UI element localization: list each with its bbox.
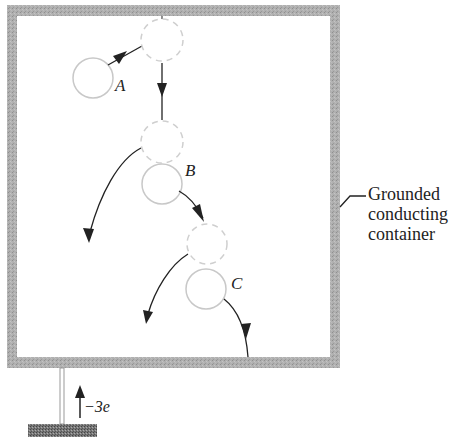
label-leader-line [340,196,366,207]
ball-label-c: C [231,274,242,294]
diagram: A B C Grounded conducting container −3e [0,0,466,447]
ball-c [186,269,226,309]
ball-label-a: A [115,76,125,96]
ball-dashed-lower [187,224,227,264]
ball-a [73,58,113,98]
container-label-line-2: conducting [368,204,448,224]
ball-b [142,164,182,204]
ball-dashed-middle [141,121,183,163]
container-label-line-1: Grounded [368,184,448,204]
ball-dashed-top [141,19,183,61]
ball-label-b: B [185,161,195,181]
charge-label: −3e [84,398,110,416]
container-label: Grounded conducting container [368,184,448,244]
container-label-line-3: container [368,224,448,244]
